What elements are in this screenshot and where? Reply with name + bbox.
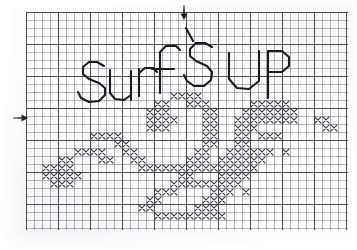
top-center-marker (179, 5, 189, 21)
letter-S (78, 62, 105, 102)
letter-apostrophe (186, 28, 193, 41)
letter-U (229, 51, 259, 89)
letter-u (110, 70, 131, 100)
letter-P (268, 51, 289, 98)
letter-r (139, 68, 157, 96)
chart-sheet: SURF'S UP Cross-stitch chart: SURF'S UP … (0, 0, 357, 250)
letter-S2 (184, 43, 212, 86)
lettering-layer (0, 0, 357, 250)
left-center-marker (13, 113, 29, 123)
letter-f (152, 46, 180, 93)
